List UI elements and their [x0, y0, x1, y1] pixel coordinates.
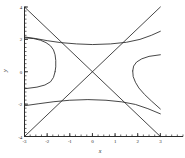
axis-lines	[25, 7, 184, 137]
x-tick-label: 1	[114, 139, 116, 144]
x-tick-label: -2	[45, 139, 49, 144]
y-tick-label: -2	[8, 102, 22, 107]
y-axis-title: y	[2, 69, 8, 72]
y-tick-label: 0	[8, 69, 22, 74]
x-tick-label: 0	[91, 139, 93, 144]
curve-hyperbola-lower-left-branch	[25, 100, 161, 114]
plot-canvas	[0, 0, 185, 158]
y-tick-label: 4	[8, 5, 22, 10]
curve-hyperbola-right-upper	[133, 55, 161, 71]
y-tick-label: 2	[8, 37, 22, 42]
x-tick-label: -1	[68, 139, 72, 144]
x-tick-label: 2	[137, 139, 139, 144]
x-tick-label: -3	[23, 139, 27, 144]
x-tick-label: 3	[159, 139, 161, 144]
y-axis-ticks	[25, 7, 29, 137]
plot-curves	[25, 7, 161, 137]
curve-hyperbola-left-lower	[25, 72, 56, 89]
curve-hyperbola-right-lower	[133, 71, 161, 109]
x-axis-title: x	[99, 148, 102, 154]
curve-hyperbola-left-upper	[25, 38, 56, 72]
y-tick-label: -4	[8, 134, 22, 139]
hyperbola-plot-figure: -3-2-10123 420-2-4 x y	[0, 0, 185, 158]
